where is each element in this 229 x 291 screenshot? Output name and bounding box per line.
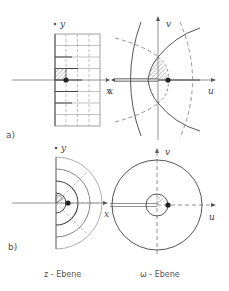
hatched-image-region-left bbox=[148, 57, 158, 80]
v-axis-arrow-icon bbox=[156, 16, 160, 21]
x-cut-label: x bbox=[108, 86, 113, 96]
v-axis-arrow-icon bbox=[155, 148, 159, 153]
u-axis-label: u bbox=[209, 212, 215, 222]
u-axis-arrow-icon bbox=[211, 203, 216, 207]
panel-a-w-plane: v u x bbox=[108, 16, 216, 140]
panel-b-z-plane: x y b) bbox=[8, 143, 109, 252]
panel-a-label: a) bbox=[6, 130, 15, 140]
singular-point-dot bbox=[65, 200, 70, 205]
dashed-curve-upper-left bbox=[115, 38, 158, 57]
image-point-dot bbox=[165, 77, 170, 82]
u-axis-label: u bbox=[208, 86, 214, 96]
x-axis-arrow-icon bbox=[103, 201, 108, 205]
w-plane-caption: ω - Ebene bbox=[140, 270, 180, 279]
panel-b-w-plane: v u bbox=[110, 147, 216, 256]
curve-lower-right bbox=[148, 80, 200, 131]
y-axis-label: y bbox=[59, 19, 66, 29]
singular-point-dot bbox=[63, 77, 68, 82]
hatched-image-region bbox=[157, 196, 165, 205]
y-axis-arrow-icon bbox=[55, 147, 58, 150]
v-axis-label: v bbox=[166, 19, 171, 29]
panel-a-z-plane: y x a) bbox=[6, 19, 111, 140]
v-axis-label: v bbox=[165, 147, 170, 157]
u-axis-arrow-icon bbox=[211, 78, 216, 82]
x-axis-label: x bbox=[104, 209, 109, 219]
y-axis-arrow-icon bbox=[54, 23, 57, 26]
z-plane-caption: z - Ebene bbox=[44, 270, 81, 279]
hatched-image-region-right bbox=[158, 57, 168, 80]
x-axis-arrow-icon bbox=[106, 78, 110, 82]
curve-left-outer bbox=[131, 22, 142, 136]
conformal-mapping-diagram: y x a) bbox=[0, 0, 229, 291]
image-point-dot bbox=[165, 202, 170, 207]
x-cut-arrow-icon bbox=[111, 78, 115, 82]
panel-b-label: b) bbox=[8, 242, 17, 252]
dashed-curve-lower-left bbox=[115, 103, 158, 122]
hatched-region bbox=[56, 195, 63, 203]
y-axis-label: y bbox=[60, 143, 67, 153]
